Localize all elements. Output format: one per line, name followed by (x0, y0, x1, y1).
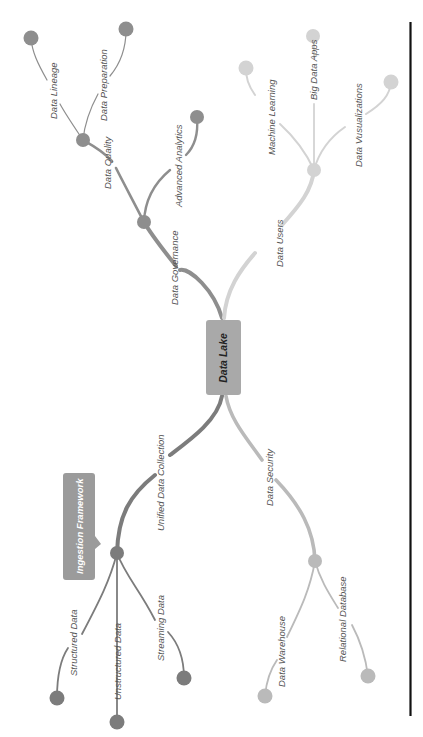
node-data-security[interactable] (308, 554, 322, 568)
leaf-machine-learning[interactable] (239, 61, 254, 76)
branch-data-security: Data Security Data Warehouse Relational … (226, 396, 376, 704)
label-big-data-apps: Big Data Apps (308, 39, 319, 100)
label-data-governance: Data Governance (169, 231, 180, 305)
connector-governance-quality (83, 140, 144, 222)
branch-data-governance: Data Governance Data Quality Advanced An… (24, 22, 223, 319)
leaf-data-preparation[interactable] (119, 22, 134, 37)
connector-center-governance (144, 222, 222, 318)
connector-center-collection (117, 396, 222, 553)
connector-users-ml (246, 68, 314, 170)
connector-collection-streaming (117, 553, 184, 678)
label-data-lineage: Data Lineage (48, 62, 59, 119)
leaf-streaming-data[interactable] (177, 671, 192, 686)
label-structured-data: Structured Data (68, 609, 79, 676)
callout-label: Ingestion Framework (74, 478, 85, 574)
label-data-security: Data Security (264, 448, 275, 506)
node-unified-data-collection[interactable] (110, 546, 124, 560)
label-data-quality: Data Quality (102, 135, 113, 189)
connector-security-warehouse (265, 561, 315, 696)
label-relational-database: Relational Database (337, 576, 348, 662)
leaf-unstructured-data[interactable] (110, 715, 125, 730)
leaf-relational-database[interactable] (361, 669, 376, 684)
branch-data-users: Data Users Machine Learning Big Data App… (224, 29, 399, 318)
connector-governance-analytics (144, 118, 197, 222)
label-data-preparation: Data Preparation (98, 49, 109, 121)
leaf-data-visualizations[interactable] (384, 75, 399, 90)
center-node-data-lake[interactable]: Data Lake (206, 320, 241, 395)
leaf-data-lineage[interactable] (24, 31, 39, 46)
leaf-advanced-analytics[interactable] (190, 110, 204, 124)
center-node-label: Data Lake (217, 333, 229, 383)
connector-center-users (224, 170, 314, 318)
label-unified-data-collection: Unified Data Collection (155, 434, 166, 531)
branch-unified-data-collection: Unified Data Collection Structured Data … (50, 396, 223, 730)
callout-ingestion-framework[interactable]: Ingestion Framework (63, 473, 101, 580)
leaf-structured-data[interactable] (50, 691, 65, 706)
node-data-governance[interactable] (137, 215, 151, 229)
label-data-warehouse: Data Warehouse (276, 616, 287, 687)
mind-map-canvas: Data Governance Data Quality Advanced An… (0, 0, 423, 737)
node-data-users[interactable] (307, 163, 321, 177)
node-data-quality[interactable] (76, 133, 90, 147)
label-data-visualizations: Data Vusualizations (353, 83, 364, 167)
label-unstructured-data: Unstructured Data (112, 623, 123, 700)
label-streaming-data: Streaming Data (155, 595, 166, 661)
label-data-users: Data Users (274, 219, 285, 267)
label-machine-learning: Machine Learning (266, 79, 277, 155)
label-advanced-analytics: Advanced Analytics (173, 124, 184, 208)
leaf-data-warehouse[interactable] (258, 689, 273, 704)
